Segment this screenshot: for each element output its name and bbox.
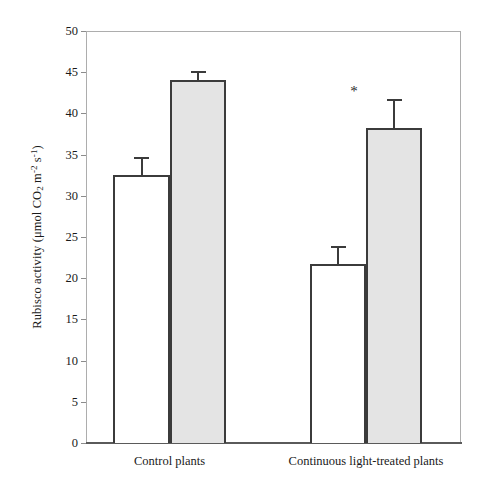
x-axis-category-label: Continuous light-treated plants <box>289 455 444 468</box>
x-axis-category-label: Control plants <box>134 455 205 468</box>
x-axis-category-labels: Control plantsContinuous light-treated p… <box>0 0 482 496</box>
figure-chart-rubisco-activity: Rubisco activity (μmol CO2 m-2 s-1) 0510… <box>0 0 482 496</box>
